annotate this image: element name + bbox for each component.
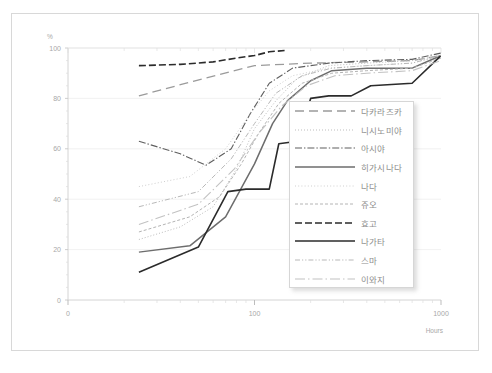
legend-label: 히가시나다 <box>361 161 402 173</box>
series-line-6 <box>139 51 285 66</box>
legend-line-sample <box>294 218 356 228</box>
legend-label: 이와지 <box>361 273 386 285</box>
plot-svg: 02040608010001001000%Hours <box>0 0 492 373</box>
chart-legend[interactable]: 다카라즈카니시노미야아시야히가시나다나다쥬오효고나가타스마이와지 <box>289 101 414 288</box>
y-tick-label: 40 <box>53 196 61 203</box>
legend-line-sample <box>294 236 356 246</box>
line-chart: 02040608010001001000%Hours <box>0 0 492 373</box>
legend-line-sample <box>294 274 356 284</box>
legend-line-sample <box>294 199 356 209</box>
y-tick-label: 100 <box>49 45 61 52</box>
legend-label: 효고 <box>361 217 377 229</box>
legend-item[interactable]: 이와지 <box>290 269 413 288</box>
legend-line-sample <box>294 162 356 172</box>
y-tick-label: 0 <box>57 297 61 304</box>
legend-line-sample <box>294 255 356 265</box>
y-tick-label: 20 <box>53 246 61 253</box>
legend-item[interactable]: 나가타 <box>290 232 413 251</box>
x-tick-label: 100 <box>249 310 261 317</box>
legend-item[interactable]: 다카라즈카 <box>290 102 413 121</box>
y-axis-title: % <box>47 33 53 40</box>
x-axis-title: Hours <box>426 327 444 334</box>
legend-label: 니시노미야 <box>361 124 402 136</box>
legend-line-sample <box>294 181 356 191</box>
y-tick-label: 80 <box>53 95 61 102</box>
legend-label: 다카라즈카 <box>361 105 402 117</box>
legend-label: 아시야 <box>361 142 386 154</box>
legend-item[interactable]: 쥬오 <box>290 195 413 214</box>
legend-label: 스마 <box>361 254 377 266</box>
legend-line-sample <box>294 143 356 153</box>
series-line-0 <box>139 56 441 96</box>
legend-label: 쥬오 <box>361 198 377 210</box>
legend-label: 나가타 <box>361 235 386 247</box>
y-tick-label: 60 <box>53 145 61 152</box>
legend-line-sample <box>294 125 356 135</box>
legend-item[interactable]: 히가시나다 <box>290 158 413 177</box>
x-tick-label: 0 <box>66 310 70 317</box>
legend-item[interactable]: 아시야 <box>290 139 413 158</box>
legend-line-sample <box>294 106 356 116</box>
legend-item[interactable]: 나다 <box>290 176 413 195</box>
x-tick-label: 1000 <box>433 310 449 317</box>
legend-item[interactable]: 효고 <box>290 214 413 233</box>
legend-item[interactable]: 스마 <box>290 251 413 270</box>
legend-item[interactable]: 니시노미야 <box>290 121 413 140</box>
legend-label: 나다 <box>361 180 377 192</box>
